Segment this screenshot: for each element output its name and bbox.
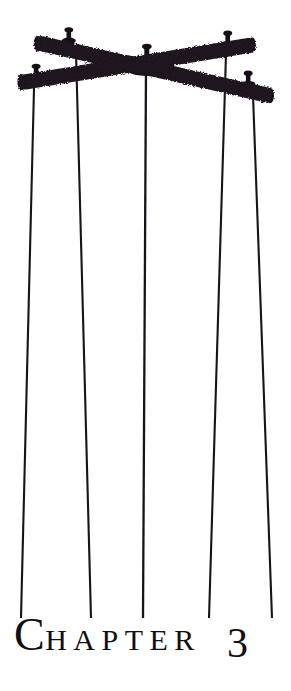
chapter-opening-page: CHAPTER 3	[0, 0, 291, 691]
marionette-control-bars-illustration	[0, 0, 291, 691]
